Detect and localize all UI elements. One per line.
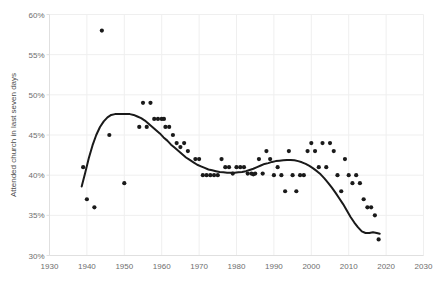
data-point xyxy=(287,149,291,153)
data-point xyxy=(268,157,272,161)
data-point xyxy=(279,173,283,177)
x-tick-label: 2030 xyxy=(415,262,433,271)
y-tick-label: 50% xyxy=(28,91,44,100)
data-point xyxy=(148,101,152,105)
data-point xyxy=(100,28,104,32)
data-point xyxy=(347,173,351,177)
x-tick-label: 1990 xyxy=(265,262,283,271)
data-point xyxy=(137,125,141,129)
x-tick-label: 1940 xyxy=(78,262,96,271)
data-point xyxy=(369,205,373,209)
data-point xyxy=(261,171,265,175)
data-point xyxy=(242,165,246,169)
data-point xyxy=(272,173,276,177)
data-point xyxy=(302,173,306,177)
data-point xyxy=(332,149,336,153)
x-tick-label: 2010 xyxy=(340,262,358,271)
data-point xyxy=(313,149,317,153)
y-tick-label: 45% xyxy=(28,131,44,140)
data-point xyxy=(216,173,220,177)
data-point xyxy=(219,157,223,161)
data-point xyxy=(276,165,280,169)
y-tick-label: 35% xyxy=(28,211,44,220)
y-tick-label: 30% xyxy=(28,252,44,261)
data-point xyxy=(227,165,231,169)
data-point xyxy=(358,181,362,185)
data-point xyxy=(234,165,238,169)
data-point xyxy=(324,165,328,169)
data-point xyxy=(343,157,347,161)
y-axis-title-group: Attended church in last seven days xyxy=(9,73,18,197)
scatter-plot-svg: 30%35%40%45%50%55%60% 193019401950196019… xyxy=(0,0,435,285)
data-point xyxy=(152,117,156,121)
data-point xyxy=(317,165,321,169)
data-point xyxy=(145,125,149,129)
data-point xyxy=(141,101,145,105)
x-tick-label: 1970 xyxy=(190,262,208,271)
chart-background xyxy=(0,0,435,285)
data-point xyxy=(197,157,201,161)
data-point xyxy=(305,149,309,153)
data-point xyxy=(354,173,358,177)
data-point xyxy=(362,197,366,201)
data-point xyxy=(182,141,186,145)
data-point xyxy=(264,149,268,153)
x-tick-label: 2020 xyxy=(377,262,395,271)
data-point xyxy=(92,205,96,209)
y-tick-label: 40% xyxy=(28,171,44,180)
data-point xyxy=(320,141,324,145)
data-point xyxy=(238,165,242,169)
data-point xyxy=(350,181,354,185)
data-point xyxy=(107,133,111,137)
data-point xyxy=(339,189,343,193)
data-point xyxy=(246,171,250,175)
data-point xyxy=(167,125,171,129)
data-point xyxy=(122,181,126,185)
data-point xyxy=(178,145,182,149)
data-point xyxy=(212,173,216,177)
data-point xyxy=(171,133,175,137)
data-point xyxy=(223,165,227,169)
data-point xyxy=(81,165,85,169)
x-tick-label: 1960 xyxy=(153,262,171,271)
data-point xyxy=(193,157,197,161)
data-point xyxy=(298,173,302,177)
x-tick-label: 1930 xyxy=(41,262,59,271)
data-point xyxy=(373,213,377,217)
data-point xyxy=(257,157,261,161)
data-point xyxy=(377,237,381,241)
data-point xyxy=(291,173,295,177)
y-axis-title: Attended church in last seven days xyxy=(9,73,18,197)
data-point xyxy=(335,173,339,177)
data-point xyxy=(201,173,205,177)
data-point xyxy=(283,189,287,193)
data-point xyxy=(163,125,167,129)
data-point xyxy=(162,117,166,121)
data-point xyxy=(309,141,313,145)
data-point xyxy=(175,141,179,145)
data-point xyxy=(365,205,369,209)
y-tick-label: 60% xyxy=(28,11,44,20)
data-point xyxy=(156,117,160,121)
data-point xyxy=(208,173,212,177)
data-point xyxy=(186,149,190,153)
chart-container: 30%35%40%45%50%55%60% 193019401950196019… xyxy=(0,0,435,285)
data-point xyxy=(231,171,235,175)
x-tick-label: 2000 xyxy=(302,262,320,271)
y-tick-label: 55% xyxy=(28,51,44,60)
data-point xyxy=(294,189,298,193)
data-point xyxy=(253,171,257,175)
data-point xyxy=(328,141,332,145)
data-point xyxy=(85,197,89,201)
x-tick-label: 1980 xyxy=(228,262,246,271)
data-point xyxy=(204,173,208,177)
x-tick-label: 1950 xyxy=(115,262,133,271)
